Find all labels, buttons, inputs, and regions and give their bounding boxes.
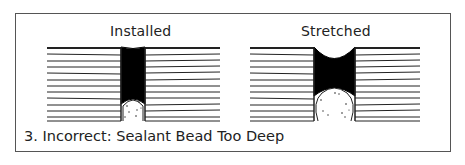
backer-rod-installed: [123, 100, 143, 121]
sealant-installed: [121, 47, 145, 104]
stretched-joint: [250, 47, 420, 121]
diagram-caption: 3. Incorrect: Sealant Bead Too Deep: [24, 128, 284, 144]
installed-joint: [47, 47, 220, 121]
